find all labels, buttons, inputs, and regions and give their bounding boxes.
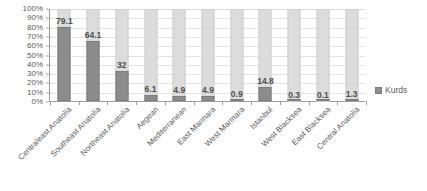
- bar-value-label: 6.1: [145, 85, 157, 94]
- bar-segment-other[interactable]: [345, 9, 358, 101]
- bar-segment-other[interactable]: [201, 9, 214, 97]
- bar-slot[interactable]: 0.9: [222, 9, 251, 101]
- chart-legend: Kurds: [375, 86, 407, 95]
- y-axis-tick-label: 90%: [27, 14, 43, 22]
- bar-stack[interactable]: [115, 9, 128, 101]
- y-axis-tick-label: 100%: [23, 5, 43, 13]
- y-axis-tick-label: 60%: [27, 42, 43, 50]
- y-axis-tick-label: 20%: [27, 79, 43, 87]
- bar-segment-kurds[interactable]: [87, 41, 100, 101]
- bar-value-label: 0.3: [288, 91, 300, 100]
- bar-segment-kurds[interactable]: [115, 71, 128, 101]
- bar-value-label: 1.3: [346, 90, 358, 99]
- bar-segment-other[interactable]: [316, 9, 329, 102]
- bar-stack[interactable]: [87, 9, 100, 101]
- bar-value-label: 0.1: [317, 91, 329, 100]
- bar-segment-kurds[interactable]: [58, 27, 71, 101]
- y-axis-tick-label: 70%: [27, 33, 43, 41]
- bar-stack[interactable]: [316, 9, 329, 101]
- bar-stack[interactable]: [288, 9, 301, 101]
- bar-value-label: 4.9: [173, 86, 185, 95]
- bar-value-label: 32: [117, 61, 126, 70]
- bar-value-label: 14.8: [257, 77, 274, 86]
- stacked-bar-chart: 100%90%80%70%60%50%40%30%20%10%0% 79.164…: [0, 0, 427, 191]
- bar-segment-other[interactable]: [230, 9, 243, 101]
- bar-slot[interactable]: 1.3: [337, 9, 366, 101]
- bar-stack[interactable]: [345, 9, 358, 101]
- y-axis-tick-label: 30%: [27, 70, 43, 78]
- bar-slot[interactable]: 0.1: [309, 9, 338, 101]
- bar-slot[interactable]: 79.1: [50, 9, 79, 101]
- bar-stack[interactable]: [259, 9, 272, 101]
- x-axis-category-label: Southeast Anatolia: [49, 105, 103, 159]
- bar-slot[interactable]: 14.8: [251, 9, 280, 101]
- bar-segment-other[interactable]: [144, 9, 157, 96]
- bar-slot[interactable]: 0.3: [280, 9, 309, 101]
- bar-segment-other[interactable]: [173, 9, 186, 97]
- y-axis-tick-label: 80%: [27, 24, 43, 32]
- bar-segment-kurds[interactable]: [144, 95, 157, 101]
- y-axis-tick-label: 10%: [27, 89, 43, 97]
- bar-segment-other[interactable]: [288, 9, 301, 102]
- y-axis-tick-label: 50%: [27, 52, 43, 60]
- bar-stack[interactable]: [230, 9, 243, 101]
- bar-segment-kurds[interactable]: [173, 96, 186, 101]
- bar-value-label: 0.9: [231, 90, 243, 99]
- y-axis-tick-label: 0%: [31, 98, 43, 106]
- y-axis-tick-label: 40%: [27, 61, 43, 69]
- bar-value-label: 64.1: [85, 31, 102, 40]
- x-axis-tick-mark: [366, 101, 367, 105]
- x-axis-category-label: Centraleast Anatolia: [17, 105, 74, 162]
- bar-segment-kurds[interactable]: [345, 99, 358, 101]
- bar-slot[interactable]: 6.1: [136, 9, 165, 101]
- bar-value-label: 79.1: [56, 17, 73, 26]
- bar-segment-kurds[interactable]: [230, 99, 243, 101]
- x-axis-category-label: Istanbul: [249, 105, 275, 131]
- x-axis-category-label: Aegean: [134, 105, 160, 131]
- bar-value-label: 4.9: [202, 86, 214, 95]
- bar-segment-kurds[interactable]: [259, 87, 272, 101]
- bar-slot[interactable]: 4.9: [194, 9, 223, 101]
- bar-slot[interactable]: 64.1: [79, 9, 108, 101]
- x-axis: Centraleast AnatoliaSoutheast AnatoliaNo…: [49, 103, 365, 191]
- bar-slot[interactable]: 32: [107, 9, 136, 101]
- bar-segment-kurds[interactable]: [201, 96, 214, 101]
- y-axis: 100%90%80%70%60%50%40%30%20%10%0%: [0, 9, 46, 102]
- legend-swatch-kurds: [375, 87, 382, 94]
- bar-slot[interactable]: 4.9: [165, 9, 194, 101]
- legend-label-kurds: Kurds: [385, 86, 407, 95]
- plot-area: 79.164.1326.14.94.90.914.80.30.11.3: [49, 9, 365, 102]
- bars-layer: 79.164.1326.14.94.90.914.80.30.11.3: [50, 9, 365, 101]
